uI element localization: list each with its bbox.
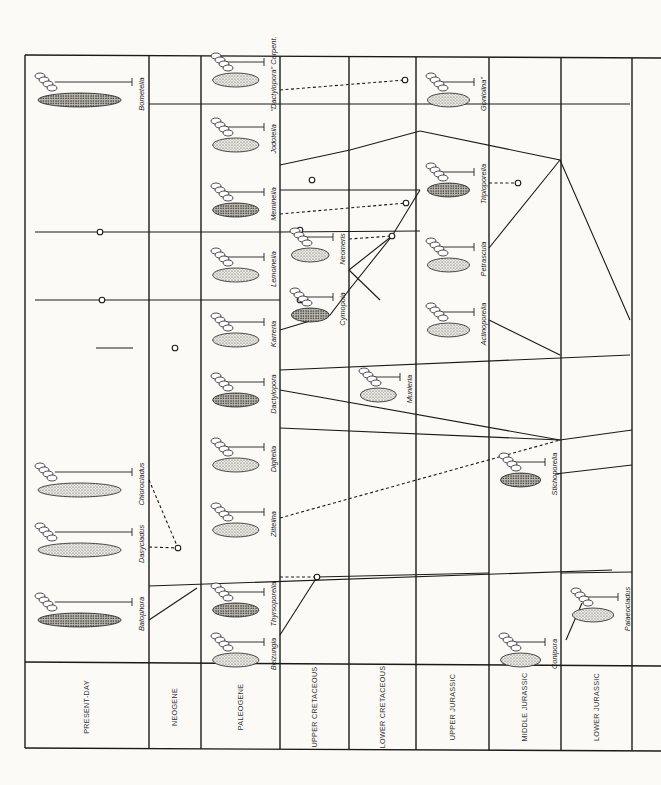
taxon-munieria <box>359 368 400 402</box>
calcified-sheath-icon <box>291 248 329 262</box>
calcified-sheath-icon <box>213 268 259 282</box>
taxon-label: Zittelina <box>269 511 278 538</box>
branch-whorl-icon <box>223 260 233 266</box>
period-label: UPPER JURASSIC <box>448 674 457 741</box>
calcified-sheath-icon <box>213 393 259 407</box>
branch-node <box>402 77 408 83</box>
lineage-line <box>280 355 630 370</box>
label-separator <box>25 662 661 666</box>
period-grid <box>25 55 661 751</box>
calcified-sheath-icon <box>572 608 613 622</box>
branch-whorl-icon <box>302 300 312 306</box>
taxon-meminella <box>211 183 264 217</box>
branch-whorl-icon <box>223 325 233 331</box>
calcified-sheath-icon <box>360 388 396 402</box>
branch-whorl-icon <box>438 315 448 321</box>
lineage-line <box>489 320 560 355</box>
calcified-sheath-icon <box>428 93 470 107</box>
taxon-label: Dasycladus <box>137 525 146 564</box>
calcified-sheath-icon <box>213 138 259 152</box>
frame-top <box>25 55 661 58</box>
taxon-label: Lemoinella <box>269 251 278 287</box>
lineage-line <box>280 390 560 440</box>
taxon-label: Chlorocladus <box>137 462 146 505</box>
calcified-sheath-icon <box>428 183 470 197</box>
branch-whorl-icon <box>223 450 233 456</box>
calcified-sheath-icon <box>291 308 329 322</box>
lineage-line <box>280 131 420 165</box>
branch-whorl-icon <box>223 515 233 521</box>
branch-node <box>314 574 320 580</box>
taxon-thyrsoporella <box>211 583 264 617</box>
lineage-line <box>561 572 632 573</box>
branch-node <box>175 545 181 551</box>
lineage-line <box>555 465 632 474</box>
branch-whorl-icon <box>47 605 57 611</box>
taxon-label: Jodotella <box>269 124 278 155</box>
taxon-palaeocladus <box>571 588 618 622</box>
branch-node <box>172 345 178 351</box>
inferred-lineage-line <box>149 480 178 548</box>
taxon-neomeris <box>290 228 333 262</box>
taxon-chlorocladus <box>35 463 132 497</box>
taxon-label: Stichoporella <box>550 453 559 496</box>
taxon-label: Batophora <box>137 597 146 631</box>
branch-whorl-icon <box>223 65 233 71</box>
period-label: UPPER CRETACEOUS <box>310 667 319 748</box>
taxon-goniolina <box>426 73 474 107</box>
labels: PRESENT-DAYNEOGENEPALEOGENEUPPER CRETACE… <box>82 36 632 748</box>
taxon-label: Neomeris <box>338 233 347 265</box>
taxon-petrascula <box>426 238 474 272</box>
calcified-sheath-icon <box>428 323 470 337</box>
branch-whorl-icon <box>223 130 233 136</box>
taxon-dasycladus <box>35 523 132 557</box>
calcified-sheath-icon <box>213 653 259 667</box>
taxon-label: Petrascula <box>479 242 488 277</box>
inferred-lineage-line <box>280 203 406 214</box>
branch-whorl-icon <box>371 380 381 386</box>
period-label: LOWER JURASSIC <box>592 673 601 741</box>
taxon-lemoinella <box>211 248 264 282</box>
lineage-line <box>420 131 630 320</box>
branch-whorl-icon <box>438 175 448 181</box>
taxon-label: Digitella <box>269 446 278 472</box>
taxon-label: Karreria <box>269 321 278 347</box>
taxon-belzungia <box>211 633 264 667</box>
taxon-label: Actinoporella <box>479 303 488 347</box>
branch-node <box>99 297 105 303</box>
lineage-line <box>35 231 420 232</box>
branch-whorl-icon <box>47 535 57 541</box>
taxon-label: Dactylopora <box>269 374 278 413</box>
taxon-triploporella <box>426 163 474 197</box>
calcified-sheath-icon <box>428 258 470 272</box>
lineage-links <box>35 77 632 640</box>
phylogeny-diagram: PRESENT-DAYNEOGENEPALEOGENEUPPER CRETACE… <box>0 0 661 785</box>
branch-whorl-icon <box>583 600 593 606</box>
calcified-sheath-icon <box>500 653 540 667</box>
taxon-zittelina <box>211 503 264 537</box>
calcified-sheath-icon <box>38 543 121 557</box>
taxon-bornetella <box>35 73 132 107</box>
taxon-digitella <box>211 438 264 472</box>
calcified-sheath-icon <box>38 613 121 627</box>
calcified-sheath-icon <box>213 73 259 87</box>
taxon-label: Palaeocladus <box>623 587 632 632</box>
taxon-label: Meminella <box>269 187 278 221</box>
calcified-sheath-icon <box>38 93 121 107</box>
lineage-line <box>149 588 197 620</box>
branch-whorl-icon <box>223 645 233 651</box>
calcified-sheath-icon <box>213 333 259 347</box>
taxon-label: Munieria <box>405 375 414 403</box>
branch-whorl-icon <box>223 595 233 601</box>
period-label: PRESENT-DAY <box>82 680 91 734</box>
taxon-label: Conipora <box>550 639 559 669</box>
branch-whorl-icon <box>223 195 233 201</box>
calcified-sheath-icon <box>213 203 259 217</box>
taxon-dactylopora <box>211 373 264 407</box>
lineage-line <box>560 430 632 440</box>
branch-whorl-icon <box>511 465 521 471</box>
branch-node <box>515 180 521 186</box>
period-label: MIDDLE JURASSIC <box>520 672 529 741</box>
taxon-conipora <box>499 633 545 667</box>
period-label: LOWER CRETACEOUS <box>378 666 387 749</box>
